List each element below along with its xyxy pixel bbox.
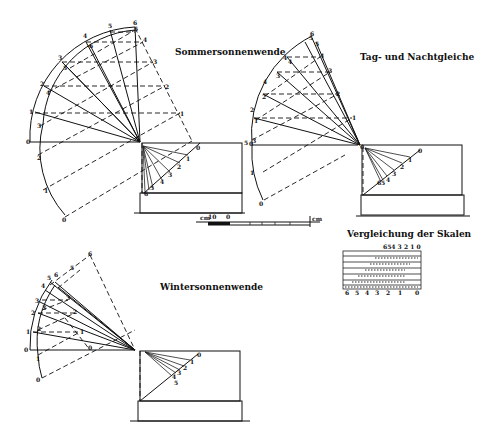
svg-text:2: 2 xyxy=(31,309,35,316)
svg-text:4: 4 xyxy=(143,36,147,43)
svg-text:1: 1 xyxy=(29,108,33,115)
svg-text:6: 6 xyxy=(144,190,148,197)
svg-text:3: 3 xyxy=(177,369,181,376)
svg-text:0: 0 xyxy=(196,144,200,151)
scale-unit-right: cm xyxy=(312,215,323,222)
scale-label-0: 0 xyxy=(226,213,230,220)
svg-text:3: 3 xyxy=(58,54,62,61)
equinox-title: Tag- und Nachtgleiche xyxy=(360,52,474,62)
scale-label-10: 10 xyxy=(208,213,216,220)
svg-text:1: 1 xyxy=(186,155,190,162)
svg-text:3: 3 xyxy=(328,67,332,74)
svg-text:4: 4 xyxy=(83,32,87,39)
svg-text:6: 6 xyxy=(89,42,93,49)
svg-text:5: 5 xyxy=(244,139,248,146)
svg-text:1: 1 xyxy=(250,169,254,176)
svg-text:2: 2 xyxy=(165,83,169,90)
svg-text:3: 3 xyxy=(276,72,280,79)
svg-text:5: 5 xyxy=(134,25,138,32)
panel-winter: 0 1 2 3 4 5 6 2 3 1 0 1 2 3 5 6 0 0 1 2 … xyxy=(24,250,263,421)
svg-text:6: 6 xyxy=(377,179,381,186)
svg-text:2: 2 xyxy=(262,93,266,100)
svg-text:0: 0 xyxy=(418,147,422,154)
svg-text:4: 4 xyxy=(386,176,390,183)
comparison-title: Vergleichung der Skalen xyxy=(346,229,472,239)
svg-text:0: 0 xyxy=(259,200,263,207)
svg-text:4: 4 xyxy=(365,289,369,296)
summer-title: Sommersonnenwende xyxy=(175,47,286,57)
svg-text:3: 3 xyxy=(252,137,256,144)
svg-text:0: 0 xyxy=(197,351,201,358)
svg-text:2: 2 xyxy=(177,163,181,170)
svg-text:1: 1 xyxy=(408,156,412,163)
svg-text:6: 6 xyxy=(345,289,349,296)
svg-text:5: 5 xyxy=(174,379,178,386)
svg-text:1: 1 xyxy=(398,289,402,296)
svg-text:2: 2 xyxy=(73,308,77,315)
svg-text:2: 2 xyxy=(250,106,254,113)
svg-text:3: 3 xyxy=(37,122,41,129)
svg-text:1: 1 xyxy=(44,187,48,194)
svg-text:5: 5 xyxy=(315,40,319,47)
svg-text:3: 3 xyxy=(392,170,396,177)
svg-text:1: 1 xyxy=(190,358,194,365)
svg-text:5: 5 xyxy=(108,22,112,29)
panel-summer: 0 1 2 3 4 5 6 2 3 4 5 6 5 1 0 1 2 3 4 0 xyxy=(26,19,286,223)
panel-equinox: 0 3 1 2 2 4 3 4 4 5 5 6 1 2 3 4 1 0 0 0 … xyxy=(249,30,474,216)
svg-text:5: 5 xyxy=(47,274,51,281)
scale-comparison: Vergleichung der Skalen 654 3 2 1 0 6 5 … xyxy=(343,229,472,296)
svg-text:1: 1 xyxy=(80,328,84,335)
svg-text:3: 3 xyxy=(35,297,39,304)
comparison-top-labels: 654 3 2 1 0 xyxy=(383,243,421,250)
svg-text:4: 4 xyxy=(160,178,164,185)
svg-text:2: 2 xyxy=(386,289,390,296)
svg-text:5: 5 xyxy=(63,64,67,71)
svg-text:2: 2 xyxy=(40,80,44,87)
svg-text:0: 0 xyxy=(88,344,92,351)
svg-text:6: 6 xyxy=(310,30,314,37)
svg-text:0: 0 xyxy=(62,216,66,223)
svg-text:1: 1 xyxy=(254,117,258,124)
svg-text:0: 0 xyxy=(36,376,40,383)
svg-text:3: 3 xyxy=(375,289,379,296)
svg-text:4: 4 xyxy=(320,52,324,59)
svg-text:2: 2 xyxy=(37,325,41,332)
svg-text:0: 0 xyxy=(415,289,419,296)
svg-text:2: 2 xyxy=(400,163,404,170)
svg-text:5: 5 xyxy=(381,179,385,186)
svg-text:4: 4 xyxy=(283,54,287,61)
svg-text:3: 3 xyxy=(66,294,70,301)
svg-text:0: 0 xyxy=(24,346,28,353)
svg-text:3: 3 xyxy=(168,171,172,178)
svg-text:4: 4 xyxy=(263,78,267,85)
svg-text:6: 6 xyxy=(54,271,58,278)
svg-text:1: 1 xyxy=(352,114,356,121)
winter-title: Wintersonnenwende xyxy=(159,282,263,292)
svg-text:2: 2 xyxy=(183,364,187,371)
sundial-construction-diagram: 0 1 2 3 4 5 6 2 3 4 5 6 5 1 0 1 2 3 4 0 xyxy=(0,0,491,445)
svg-text:4: 4 xyxy=(46,89,50,96)
svg-text:5: 5 xyxy=(150,184,154,191)
svg-text:4: 4 xyxy=(288,58,292,65)
summer-outer-arc xyxy=(30,27,135,142)
svg-text:1: 1 xyxy=(26,328,30,335)
svg-text:1: 1 xyxy=(36,355,40,362)
svg-text:1: 1 xyxy=(180,110,184,117)
summer-inner-arc-lower xyxy=(40,124,65,215)
svg-text:4: 4 xyxy=(41,282,45,289)
scale-bar: cm 10 0 cm xyxy=(196,213,323,227)
svg-text:3: 3 xyxy=(153,58,157,65)
svg-text:6: 6 xyxy=(88,250,92,257)
svg-text:5: 5 xyxy=(355,289,359,296)
svg-text:2: 2 xyxy=(37,154,41,161)
svg-text:5: 5 xyxy=(70,264,74,271)
svg-text:0: 0 xyxy=(26,138,30,145)
svg-text:2: 2 xyxy=(336,90,340,97)
svg-text:3: 3 xyxy=(42,304,46,311)
